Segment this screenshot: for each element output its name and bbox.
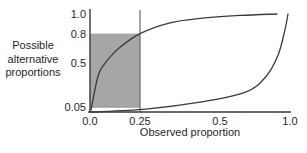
x-axis-title: Observed proportion [90,126,290,138]
y-tick-label: 0.8 [42,28,86,40]
confidence-interval-figure: Possible alternative proportions 1.00.80… [0,0,307,153]
y-tick-label: 0.05 [42,101,86,113]
y-tick-label: 0.5 [42,57,86,69]
shaded-region [90,34,140,108]
y-tick-label: 1.0 [42,8,86,20]
